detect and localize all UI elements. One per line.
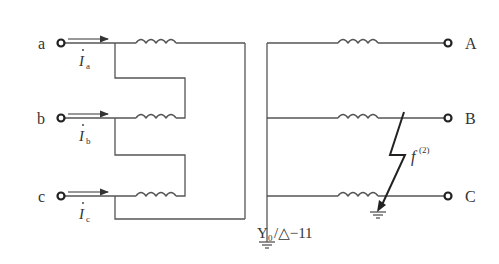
- winding-A-coil: [338, 40, 378, 44]
- fault-label: f (2): [411, 145, 430, 166]
- svg-text:Y: Y: [257, 225, 268, 241]
- current-label-c: I c: [78, 202, 90, 224]
- winding-c-coil: [136, 193, 176, 197]
- svg-text:I: I: [78, 53, 85, 69]
- current-label-a: I a: [78, 49, 90, 71]
- neutral-ground-icon: [259, 242, 275, 248]
- terminal-A: [445, 40, 452, 47]
- fault-ground-icon: [370, 212, 386, 218]
- svg-text:b: b: [86, 136, 91, 146]
- terminal-c: [58, 193, 65, 200]
- current-label-b: I b: [78, 124, 91, 146]
- winding-C-coil: [338, 193, 378, 197]
- fault-lightning-icon: [377, 112, 405, 212]
- terminal-C: [445, 193, 452, 200]
- delta-link-b-c: [115, 118, 185, 196]
- delta-link-a-b: [115, 43, 185, 118]
- svg-text:I: I: [78, 128, 85, 144]
- winding-B-coil: [338, 115, 378, 119]
- svg-text:f: f: [411, 148, 418, 166]
- svg-text:0: 0: [268, 233, 273, 243]
- connection-label: Y Y 0 /△−11: [257, 225, 313, 243]
- terminal-label-C: C: [465, 188, 476, 205]
- terminal-label-B: B: [465, 110, 476, 127]
- terminal-b: [58, 115, 65, 122]
- svg-text:/△−11: /△−11: [274, 225, 313, 241]
- svg-text:I: I: [78, 206, 85, 222]
- winding-b-coil: [136, 115, 176, 119]
- svg-text:c: c: [86, 214, 90, 224]
- winding-a-coil: [136, 40, 176, 44]
- terminal-label-a: a: [38, 35, 45, 52]
- terminal-label-c: c: [38, 188, 45, 205]
- svg-text:(2): (2): [419, 145, 430, 155]
- terminal-B: [445, 115, 452, 122]
- svg-text:a: a: [86, 61, 90, 71]
- terminal-label-b: b: [37, 110, 45, 127]
- terminal-a: [58, 40, 65, 47]
- transformer-fault-diagram: a b c I a I b I c A B C f (2) Y Y 0 /△−1…: [0, 0, 499, 264]
- delta-link-c-a: [115, 196, 245, 219]
- terminal-label-A: A: [465, 35, 477, 52]
